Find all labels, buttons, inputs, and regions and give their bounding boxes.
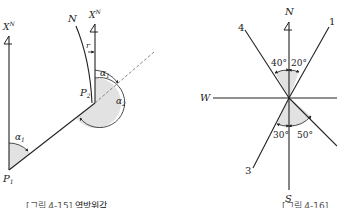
west-label: W xyxy=(200,92,211,103)
north-arrow-icon xyxy=(284,22,292,30)
caption-right-number: [그림 4-16] xyxy=(282,201,328,208)
ray-4-label: 4 xyxy=(238,22,244,33)
caption-right: [그림 4-16] xyxy=(282,199,328,208)
angle-40-label: 40° xyxy=(271,58,287,68)
p1-label: P1 xyxy=(2,173,14,185)
ray-3-label: 3 xyxy=(245,165,251,176)
back-bearing-figure: XN XN N r α1 α2 α1 P1 P2 xyxy=(2,8,154,185)
caption-left-number: [그림 4-15] xyxy=(26,201,72,208)
gamma-label: r xyxy=(86,41,91,50)
angle-50-label: 50° xyxy=(297,130,313,140)
bearing-compass-figure: N S W 1 4 3 40° 20° 30° 50° xyxy=(200,6,337,204)
figure-stage: XN XN N r α1 α2 α1 P1 P2 xyxy=(0,0,337,208)
caption-left-title: 역방위각 xyxy=(75,201,107,208)
bearing-diagrams: XN XN N r α1 α2 α1 P1 P2 xyxy=(0,0,337,208)
angle-30-label: 30° xyxy=(273,130,289,140)
north-arrow-icon xyxy=(4,36,12,44)
caption-left: [그림 4-15] 역방위각 xyxy=(26,199,107,208)
n-label: N xyxy=(67,13,78,24)
xn-label-p2: XN xyxy=(88,8,101,20)
north-label: N xyxy=(284,6,295,17)
north-arrow-icon xyxy=(90,24,98,32)
p2-label: P2 xyxy=(79,87,91,99)
ray-1-label: 1 xyxy=(329,16,335,27)
north-sector-shade xyxy=(275,70,299,98)
alpha1-label-p1: α1 xyxy=(15,132,25,143)
xn-label-p1: XN xyxy=(2,20,15,32)
angle-20-label: 20° xyxy=(291,58,307,68)
